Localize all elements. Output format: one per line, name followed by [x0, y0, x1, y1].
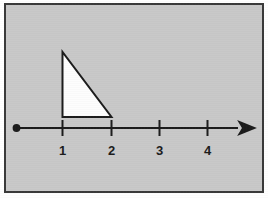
right-triangle — [63, 52, 112, 117]
number-line-start-dot — [13, 124, 21, 132]
tick-label-2: 2 — [108, 143, 115, 158]
right-triangle-shape — [63, 52, 112, 117]
figure-root: 1 2 3 4 — [0, 0, 268, 198]
tick-label-3: 3 — [156, 143, 163, 158]
tick-label-4: 4 — [204, 143, 212, 158]
number-line-figure: 1 2 3 4 — [0, 0, 268, 198]
tick-label-1: 1 — [59, 143, 66, 158]
number-line: 1 2 3 4 — [13, 120, 238, 158]
